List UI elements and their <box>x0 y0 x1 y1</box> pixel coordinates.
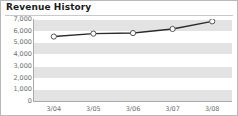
data-point-marker <box>130 30 135 35</box>
data-point-marker <box>170 26 175 31</box>
chart-area: 7,0006,0005,0004,0003,0002,0001,0000 3/0… <box>1 16 237 115</box>
y-axis-tick-label: 5,000 <box>2 38 32 46</box>
x-axis-tick-label: 3/07 <box>156 105 190 113</box>
page-title: Revenue History <box>6 2 91 12</box>
series-markers <box>51 19 215 39</box>
x-axis-tick-label: 3/04 <box>37 105 71 113</box>
revenue-history-chart-widget: Revenue History 7,0006,0005,0004,0003,00… <box>0 0 238 116</box>
y-axis-tick-labels: 7,0006,0005,0004,0003,0002,0001,0000 <box>1 16 32 115</box>
y-axis-tick-label: 4,000 <box>2 50 32 58</box>
plot-region <box>34 19 232 101</box>
y-axis-tick-label: 3,000 <box>2 62 32 70</box>
x-axis-tick-labels: 3/043/053/063/073/08 <box>34 105 232 116</box>
x-axis-tick-label: 3/06 <box>116 105 150 113</box>
chart-title-bar: Revenue History <box>1 1 237 16</box>
y-axis-tick-label: 0 <box>2 97 32 105</box>
x-axis-line <box>33 101 232 102</box>
data-point-marker <box>91 31 96 36</box>
x-axis-tick-label: 3/08 <box>195 105 229 113</box>
data-point-marker <box>51 34 56 39</box>
data-point-marker <box>210 19 215 24</box>
y-axis-tick-label: 2,000 <box>2 74 32 82</box>
y-axis-tick-label: 7,000 <box>2 15 32 23</box>
y-axis-tick-label: 1,000 <box>2 85 32 93</box>
revenue-line-series <box>34 19 232 101</box>
y-axis-tick-label: 6,000 <box>2 27 32 35</box>
x-axis-tick-label: 3/05 <box>76 105 110 113</box>
